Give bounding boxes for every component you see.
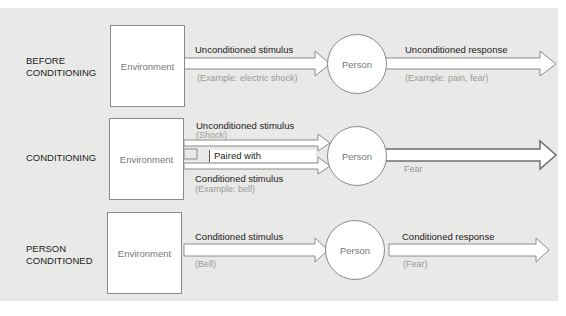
row-label-line: CONDITIONING	[26, 152, 96, 164]
row-label-line: CONDITIONED	[26, 255, 93, 267]
environment-label: Environment	[118, 248, 171, 259]
stimulus-example: (Shock)	[196, 130, 227, 140]
environment-box: Environment	[107, 212, 182, 294]
row-label-line: PERSON	[26, 243, 93, 255]
paired-with-label: Paired with	[209, 150, 316, 162]
response-example: (Example: pain, fear)	[405, 73, 489, 83]
person-circle: Person	[327, 126, 387, 186]
person-label: Person	[342, 59, 372, 70]
row-label-conditioning: CONDITIONING	[26, 152, 96, 164]
environment-label: Environment	[120, 154, 173, 165]
person-label: Person	[342, 151, 372, 162]
conditioned-stimulus-label: Conditioned stimulus	[195, 231, 283, 242]
stimulus-example: (Example: electric shock)	[197, 73, 298, 83]
response-example: Fear	[404, 164, 423, 174]
row-label-before-conditioning: BEFORE CONDITIONING	[26, 55, 96, 79]
environment-box: Environment	[110, 25, 185, 107]
conditioned-response-label: Conditioned response	[402, 231, 494, 242]
row-label-person-conditioned: PERSON CONDITIONED	[26, 243, 93, 267]
stimulus-example: (Example: bell)	[195, 184, 255, 194]
person-circle: Person	[325, 220, 385, 280]
environment-box: Environment	[109, 118, 184, 200]
response-example: (Fear)	[403, 259, 428, 269]
person-label: Person	[340, 245, 370, 256]
paired-connector	[184, 149, 197, 159]
conditioned-stimulus-label: Conditioned stimulus	[195, 173, 283, 184]
row-label-line: BEFORE	[26, 55, 96, 67]
person-circle: Person	[327, 34, 387, 94]
stimulus-example: (Bell)	[195, 259, 216, 269]
row-label-line: CONDITIONING	[26, 67, 96, 79]
environment-label: Environment	[121, 61, 174, 72]
unconditioned-response-label: Unconditioned response	[405, 44, 507, 55]
unconditioned-stimulus-label: Unconditioned stimulus	[195, 44, 293, 55]
